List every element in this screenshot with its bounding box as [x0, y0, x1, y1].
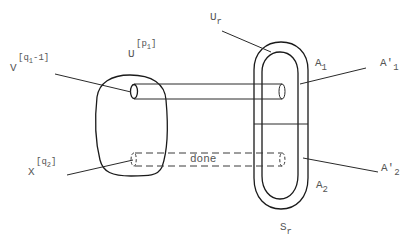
svg-text:[q1-1]: [q1-1]	[18, 53, 49, 65]
label-done: done	[190, 153, 216, 165]
leader-v	[55, 74, 131, 92]
svg-text:[p1]: [p1]	[136, 39, 156, 51]
label-a2-prime: A'2	[381, 162, 400, 178]
svg-text:A1: A1	[315, 57, 327, 73]
svg-text:A'2: A'2	[381, 162, 400, 178]
label-a2: A2	[316, 179, 328, 195]
diagram-canvas: V [q1-1] U [p1] X [q2] Ur A1 A'1 A2 A'2 …	[0, 0, 405, 247]
label-v: V [q1-1]	[10, 53, 49, 74]
label-ur: Ur	[210, 11, 222, 27]
dashed-tube-left-end	[131, 153, 136, 166]
label-sr: Sr	[280, 221, 292, 237]
svg-text:A2: A2	[316, 179, 328, 195]
leader-a2p	[303, 158, 378, 172]
solid-tube-right-end-back	[279, 84, 282, 99]
svg-text:Sr: Sr	[280, 221, 292, 237]
right-loop-inner	[262, 52, 298, 199]
label-u-base: U	[128, 48, 135, 60]
label-a1: A1	[315, 57, 327, 73]
solid-tube-left-end	[131, 85, 138, 99]
svg-text:[q2]: [q2]	[36, 157, 56, 169]
leader-ur	[222, 31, 271, 52]
label-x: X [q2]	[28, 157, 56, 178]
svg-text:A'1: A'1	[380, 57, 399, 73]
label-u: U [p1]	[128, 39, 156, 60]
label-x-base: X	[28, 166, 35, 178]
solid-tube-right-end	[282, 84, 285, 99]
svg-text:Ur: Ur	[210, 11, 222, 27]
dashed-tube-right-end	[280, 153, 285, 166]
leader-a1p	[300, 68, 366, 84]
label-v-base: V	[10, 62, 17, 74]
label-a1-prime: A'1	[380, 57, 399, 73]
